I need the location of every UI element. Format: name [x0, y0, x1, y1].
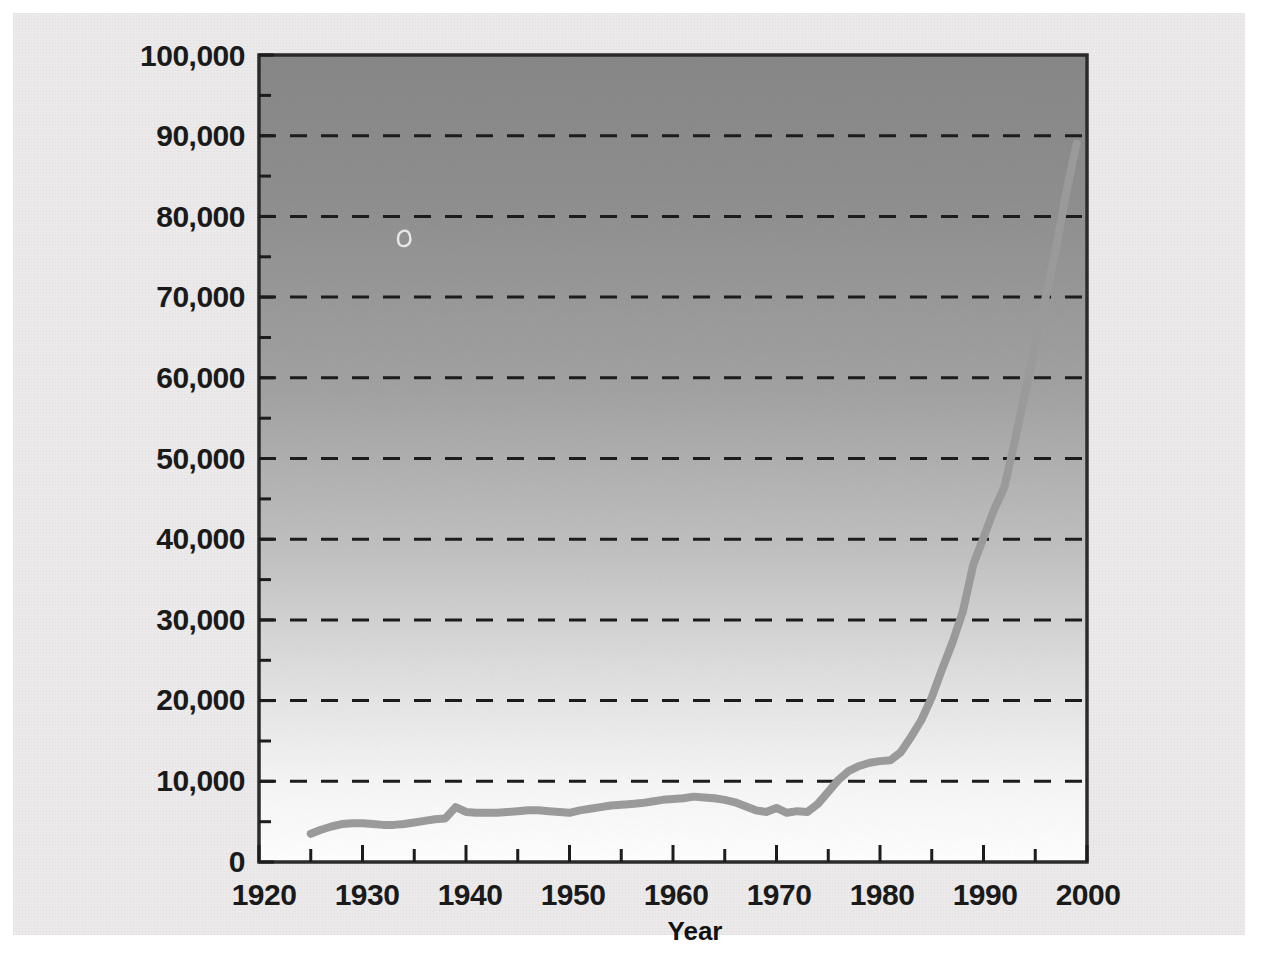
y-tick-label-40000: 40,000: [156, 522, 245, 556]
y-tick-label-90000: 90,000: [156, 119, 245, 153]
x-tick-label-2000: 2000: [1026, 878, 1150, 912]
y-tick-label-0: 0: [229, 845, 245, 879]
line-chart: 100,000 90,000 80,000 70,000 60,000 50,0…: [0, 0, 1267, 973]
y-tick-label-20000: 20,000: [156, 683, 245, 717]
y-tick-label-70000: 70,000: [156, 280, 245, 314]
y-tick-label-60000: 60,000: [156, 361, 245, 395]
x-axis-title: Year: [0, 916, 1267, 947]
y-tick-label-80000: 80,000: [156, 200, 245, 234]
y-tick-label-100000: 100,000: [140, 39, 245, 73]
y-tick-label-10000: 10,000: [156, 764, 245, 798]
y-tick-label-50000: 50,000: [156, 442, 245, 476]
y-tick-label-30000: 30,000: [156, 603, 245, 637]
